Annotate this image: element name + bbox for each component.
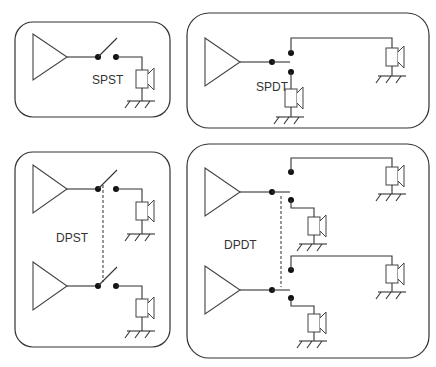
speaker-icon bbox=[308, 312, 326, 334]
amplifier-icon bbox=[205, 38, 240, 86]
label-spdt: SPDT bbox=[256, 80, 288, 94]
label-dpdt: DPDT bbox=[224, 238, 257, 252]
ground-icon bbox=[297, 341, 327, 348]
speaker-icon bbox=[136, 68, 154, 90]
speaker-icon bbox=[136, 200, 154, 222]
switch-blade bbox=[98, 38, 117, 57]
panel-spdt bbox=[187, 13, 429, 128]
ground-icon bbox=[125, 234, 155, 241]
label-spst: SPST bbox=[92, 73, 123, 87]
label-dpst: DPST bbox=[56, 231, 88, 245]
ground-icon bbox=[376, 292, 406, 299]
switch-diagram bbox=[0, 0, 436, 367]
ground-icon bbox=[125, 331, 155, 338]
switch-blade bbox=[98, 267, 117, 286]
speaker-icon bbox=[308, 215, 326, 237]
amplifier-icon bbox=[205, 266, 240, 314]
speaker-icon bbox=[386, 263, 404, 285]
switch-blade bbox=[98, 170, 117, 189]
ground-icon bbox=[376, 76, 406, 83]
ground-icon bbox=[376, 194, 406, 201]
ground-icon bbox=[297, 244, 327, 251]
panel-spst bbox=[15, 22, 170, 117]
ground-icon bbox=[274, 117, 304, 124]
speaker-icon bbox=[136, 297, 154, 319]
speaker-icon bbox=[386, 165, 404, 187]
panel-dpst bbox=[15, 152, 170, 347]
amplifier-icon bbox=[33, 165, 67, 213]
amplifier-icon bbox=[33, 262, 67, 310]
speaker-icon bbox=[386, 46, 404, 68]
amplifier-icon bbox=[205, 168, 240, 216]
ground-icon bbox=[125, 101, 155, 108]
amplifier-icon bbox=[33, 34, 67, 80]
